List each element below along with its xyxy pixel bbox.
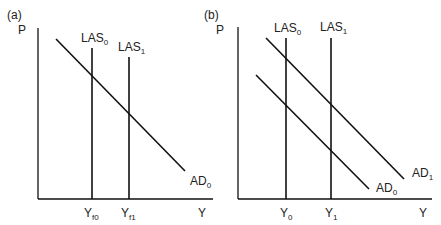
panel-b: (b) P Y LAS0 Y0 LAS1 Y1 AD0 AD1 [204, 8, 434, 222]
panel-a: (a) P Y LAS0 Yf0 LAS1 Yf1 AD0 [7, 8, 213, 222]
panel-b-tick-y0: Y0 [280, 206, 293, 222]
panel-b-las0-label: LAS0 [274, 21, 302, 37]
panel-a-y-axis-label: P [18, 23, 26, 37]
panel-b-ad0-label: AD0 [376, 181, 398, 197]
panel-a-ad0-label: AD0 [190, 174, 212, 190]
panel-a-tick-yf0: Yf0 [84, 206, 99, 222]
panel-b-las1-label: LAS1 [320, 20, 348, 36]
panel-b-ad0-line [256, 75, 369, 189]
panel-a-x-axis-label: Y [198, 206, 206, 220]
panel-a-las0-label: LAS0 [81, 31, 109, 47]
panel-b-y-axis-label: P [216, 23, 224, 37]
panel-b-label: (b) [204, 8, 219, 22]
panel-a-las1-label: LAS1 [118, 40, 146, 56]
panel-a-ad0-line [56, 39, 185, 171]
panel-b-ad1-label: AD1 [412, 166, 434, 182]
panel-b-x-axis-label: Y [419, 206, 427, 220]
panel-a-tick-yf1: Yf1 [121, 206, 136, 222]
ad-las-diagram: (a) P Y LAS0 Yf0 LAS1 Yf1 AD0 (b) P Y LA… [0, 0, 441, 225]
panel-a-label: (a) [7, 8, 22, 22]
panel-b-tick-y1: Y1 [325, 206, 338, 222]
